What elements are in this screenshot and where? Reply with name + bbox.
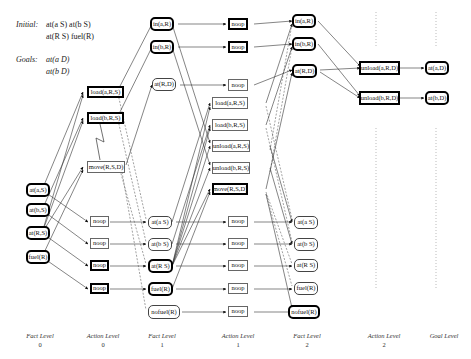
level-label-fact-1: Fact Level1 [132,332,192,348]
goals-label: Goals: [16,55,38,64]
action-node: load(a,R,S) [87,86,124,98]
level-label-goal: Goal Level [414,332,471,341]
action-node: noop [90,260,109,271]
initial-label: Initial: [16,20,38,29]
initial-state-line2: at(R S) fuel(R) [46,32,94,41]
fact-node: in(a,R) [150,17,174,31]
goal-node: at(b,D) [425,91,449,105]
action-node: noop [90,216,109,227]
fact-node: at(a S) [294,216,318,229]
fact-node: nofuel(R) [148,305,180,319]
level-label-action-2: Action Level2 [354,332,414,348]
level-label-action-1: Action Level1 [208,332,268,348]
action-node: move(R,S,D) [212,183,248,195]
fact-node: in(a,R) [292,14,316,28]
action-node: noop [228,238,248,249]
action-node: load(b,R,S) [212,119,248,131]
fact-node: fuel(R) [26,250,50,264]
action-node: noop [228,41,248,53]
goal-line1: at(a D) [46,55,69,64]
level-label-action-0: Action Level0 [73,332,133,348]
action-node: noop [228,216,248,227]
action-node: move(R,S,D) [87,161,125,173]
mutex-lightning-icon [96,124,104,160]
fact-node: at(a S) [148,216,172,229]
fact-node: at(R,D) [292,64,317,78]
action-node: unload(b,R,S) [212,162,250,174]
level-label-fact-2: Fact Level2 [277,332,337,348]
action-node: noop [90,283,109,294]
fact-node: in(b,R) [150,40,174,54]
action-node: unload(a,R,D) [359,61,400,75]
action-node: noop [90,238,109,249]
level-label-fact-0: Fact Level0 [10,332,70,348]
action-node: noop [228,283,248,294]
fact-node: at(a,S) [26,183,50,197]
goal-line2: at(b D) [46,67,69,76]
fact-node: fuel(R) [148,282,173,296]
action-node: noop [228,306,248,317]
initial-state-line1: at(a S) at(b S) [46,20,91,29]
fact-node: at(b S) [294,238,318,251]
action-node: unload(a,R,S) [212,140,250,152]
fact-node: at(b S) [148,238,172,251]
action-node: load(a,R,S) [212,97,248,109]
fact-node: at(R S) [294,259,318,272]
action-node: noop [228,18,248,30]
fact-node: nofuel(R) [288,305,320,319]
fact-node: in(b,R) [292,37,316,51]
action-node: unload(b,R,D) [359,91,400,105]
fact-node: fuel(R) [294,282,318,295]
fact-node: at(b,S) [26,203,50,217]
goal-node: at(a,D) [425,61,449,75]
action-node: load(b,R,S) [87,112,124,124]
fact-node: at(R S) [148,259,173,273]
fact-node: at(R,S) [26,226,50,240]
action-node: noop [228,260,248,271]
fact-node: at(R,D) [152,78,176,91]
action-node: noop [228,79,248,91]
